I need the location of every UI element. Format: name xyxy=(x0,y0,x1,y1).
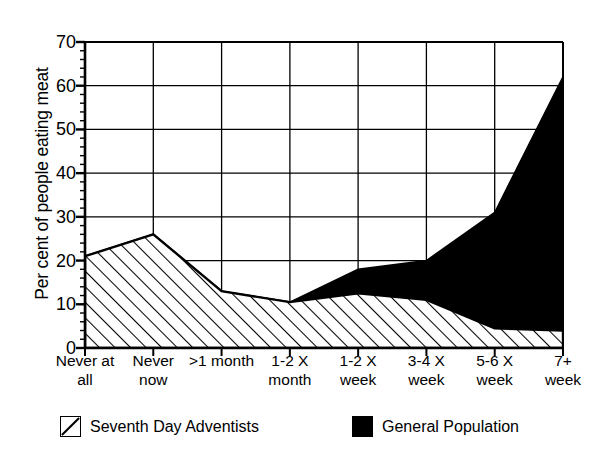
hatched-swatch-icon xyxy=(60,416,81,437)
chart-figure: Per cent of people eating meat 0 10 20 3… xyxy=(0,0,601,463)
x-tick-line2: now xyxy=(107,371,199,390)
x-tick-line1: 7+ xyxy=(517,352,601,371)
legend-label: Seventh Day Adventists xyxy=(90,418,259,436)
chart-legend: Seventh Day Adventists General Populatio… xyxy=(0,414,601,450)
solid-black-swatch-icon xyxy=(352,416,373,437)
legend-entry-seventh-day-adventists: Seventh Day Adventists xyxy=(60,416,259,437)
legend-label: General Population xyxy=(382,418,519,436)
x-axis-tick-labels: Never at all Never now >1 month 1-2 X mo… xyxy=(85,352,563,408)
y-axis-ticks xyxy=(76,42,85,348)
x-tick-label: 7+ week xyxy=(517,352,601,390)
x-tick-line2: week xyxy=(517,371,601,390)
legend-entry-general-population: General Population xyxy=(352,416,519,437)
